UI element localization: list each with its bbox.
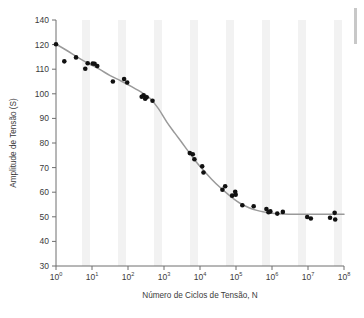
data-point bbox=[268, 209, 273, 214]
page-edge-artifact bbox=[354, 8, 357, 44]
y-tick-label: 120 bbox=[35, 40, 49, 50]
y-tick-label: 30 bbox=[40, 261, 50, 271]
data-point bbox=[122, 77, 127, 82]
chart-background bbox=[0, 0, 364, 318]
decade-band bbox=[262, 20, 270, 266]
data-point bbox=[125, 80, 130, 85]
y-tick-label: 40 bbox=[40, 236, 50, 246]
data-point bbox=[309, 216, 314, 221]
data-point bbox=[62, 59, 67, 64]
data-point bbox=[332, 211, 337, 216]
y-tick-label: 70 bbox=[40, 163, 50, 173]
y-tick-label: 90 bbox=[40, 113, 50, 123]
data-point bbox=[328, 215, 333, 220]
data-point bbox=[85, 61, 90, 66]
x-axis-tick-labels: 100101102103104105106107108 bbox=[50, 271, 351, 282]
data-point bbox=[111, 79, 116, 84]
data-point bbox=[281, 210, 286, 215]
data-point bbox=[333, 217, 338, 222]
decade-band bbox=[334, 20, 342, 266]
y-tick-label: 60 bbox=[40, 187, 50, 197]
data-point bbox=[275, 211, 280, 216]
y-tick-label: 50 bbox=[40, 212, 50, 222]
data-point bbox=[54, 42, 59, 47]
data-point bbox=[144, 95, 149, 100]
y-tick-label: 140 bbox=[35, 15, 49, 25]
decade-band bbox=[298, 20, 306, 266]
data-point bbox=[192, 157, 197, 162]
data-point bbox=[251, 204, 256, 209]
y-axis-title: Amplitude de Tensão (S) bbox=[9, 98, 18, 188]
data-point bbox=[95, 64, 100, 69]
y-tick-label: 100 bbox=[35, 89, 49, 99]
y-tick-label: 80 bbox=[40, 138, 50, 148]
chart-canvas: 100101102103104105106107108 140120110100… bbox=[0, 0, 364, 318]
decade-band bbox=[118, 20, 126, 266]
x-axis-title: Número de Ciclos de Tensão, N bbox=[142, 291, 258, 300]
data-point bbox=[201, 170, 206, 175]
data-point bbox=[74, 55, 79, 60]
data-point bbox=[190, 152, 195, 157]
data-point bbox=[223, 184, 228, 189]
decade-band bbox=[154, 20, 162, 266]
y-tick-label: 110 bbox=[35, 64, 49, 74]
fatigue-chart-figure: 100101102103104105106107108 140120110100… bbox=[0, 0, 364, 318]
decade-band bbox=[190, 20, 198, 266]
data-point bbox=[240, 203, 245, 208]
data-point bbox=[83, 66, 88, 71]
decade-band bbox=[82, 20, 90, 266]
data-point bbox=[233, 192, 238, 197]
decade-band bbox=[226, 20, 234, 266]
data-point bbox=[150, 98, 155, 103]
data-point bbox=[200, 164, 205, 169]
